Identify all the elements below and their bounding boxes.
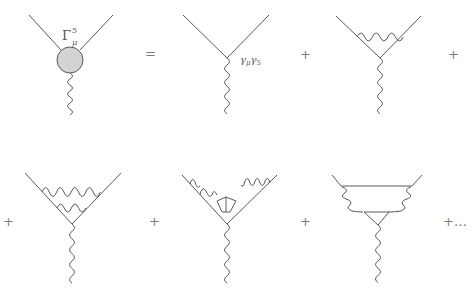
diagram-two-loop-light-by-light <box>182 175 277 283</box>
photon-line <box>376 225 381 283</box>
gamma-superscript: 5 <box>72 26 77 35</box>
diagram-full-vertex: Γ 5 μ <box>29 15 113 115</box>
right-internal-photon <box>241 178 270 186</box>
photon-line <box>378 58 383 114</box>
equals-sign: = <box>145 46 156 61</box>
internal-photon <box>357 33 403 41</box>
diagram-one-loop <box>336 16 421 114</box>
plus-ellipsis: +… <box>443 214 467 229</box>
fermion-leg-left <box>332 175 341 186</box>
fermion-leg-right <box>72 173 121 224</box>
photon-line <box>68 73 73 115</box>
right-internal-photon <box>388 187 411 212</box>
gamma-mu-gamma5-label: γμγ5 <box>240 54 261 67</box>
plus-sign: + <box>149 214 160 229</box>
fermion-leg-right <box>80 15 113 50</box>
fermion-leg-left <box>336 16 380 58</box>
inner-internal-photon <box>57 204 86 212</box>
photon-line <box>225 224 230 283</box>
photon-line <box>225 58 230 114</box>
fermion-leg-right <box>380 16 421 58</box>
fermion-leg-right <box>227 15 269 58</box>
plus-sign: + <box>3 214 14 229</box>
fermion-leg-left <box>183 15 227 58</box>
plus-sign: + <box>448 47 459 62</box>
fermion-leg-right <box>412 175 422 186</box>
left-internal-photon <box>342 187 363 212</box>
diagram-two-loop-ladder <box>25 173 121 283</box>
fermion-leg-left <box>29 15 61 50</box>
triangle-loop <box>364 212 389 225</box>
feynman-diagram-expansion: Γ 5 μ = γμγ5 + + + + <box>0 0 472 295</box>
vertex-blob <box>57 47 83 73</box>
gamma-subscript: μ <box>72 38 77 47</box>
plus-sign: + <box>300 214 311 229</box>
plus-sign: + <box>300 47 311 62</box>
gamma-label: Γ <box>62 28 71 43</box>
outer-internal-photon <box>42 188 100 197</box>
diagram-two-loop-triangle <box>332 175 422 283</box>
diagram-tree-level: γμγ5 <box>183 15 269 114</box>
photon-line <box>70 224 75 283</box>
fermion-leg-left <box>25 173 72 224</box>
